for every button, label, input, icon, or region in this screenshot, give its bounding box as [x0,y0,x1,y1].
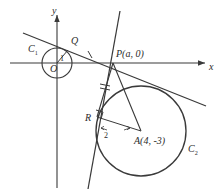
circle-label-c1-subscript: 1 [35,49,38,56]
circle-label-c2-letter: C [188,143,195,154]
figure-canvas [0,0,223,196]
point-label-a: A(4, -3) [134,136,165,146]
radius-label-arrows [101,126,130,130]
circle-label-c2-subscript: 2 [195,149,198,156]
point-label-p: P(a, 0) [116,49,144,59]
point-label-q: Q [71,36,78,46]
segment-pr [97,63,113,117]
point-label-r: R [85,113,91,123]
tick-mark-pq [88,51,92,58]
x-axis-arrowhead [198,60,205,65]
circle-label-c1-letter: C [28,43,35,54]
radius-length-label-c1: 1 [60,55,64,63]
y-axis-label: y [52,6,56,16]
segment-pa [113,63,141,131]
geometry-figure: y x O Q P(a, 0) R A(4, -3) C1 C2 1 2 [0,0,223,196]
tangent-line-steep [88,11,120,189]
point-label-origin: O [50,64,57,74]
tick-mark-pr [100,84,110,90]
radius-length-label-c2: 2 [104,132,108,140]
y-axis-arrowhead [54,15,59,22]
circle-label-c2: C2 [188,144,198,156]
circle-label-c1: C1 [28,44,38,56]
x-axis-label: x [209,62,213,72]
